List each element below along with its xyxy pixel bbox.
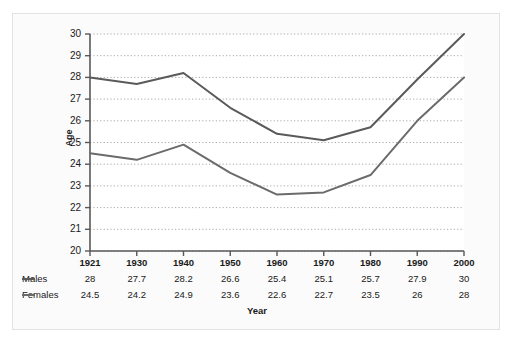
table-cell: 25.4 [254,271,301,287]
table-year-header: 1921 [67,255,114,271]
y-tick-label: 21 [57,223,81,235]
table-cell: 24.9 [160,287,207,303]
table-year-header: 1940 [160,255,207,271]
table-year-header: 1960 [254,255,301,271]
legend-item-females: Females [22,287,67,303]
legend-swatch-icon [22,294,35,296]
legend-swatch-icon [22,278,35,280]
table-cell: 26.6 [207,271,254,287]
table-header-row: 192119301940195019601970198019902000 [22,255,487,271]
table-cell: 25.1 [300,271,347,287]
table-cell: 23.6 [207,287,254,303]
x-axis-title: Year [0,305,514,316]
table-year-header: 1950 [207,255,254,271]
table-row: Females24.524.224.923.622.622.723.52628 [22,287,487,303]
y-tick-label: 23 [57,180,81,192]
table-cell: 25.7 [347,271,394,287]
table-cell: 28.2 [160,271,207,287]
table-year-header: 1980 [347,255,394,271]
table-year-header: 2000 [441,255,488,271]
data-table: 192119301940195019601970198019902000Male… [22,255,487,303]
table-year-header: 1930 [113,255,160,271]
table-cell: 24.5 [67,287,114,303]
table-year-header: 1970 [300,255,347,271]
table-cell: 30 [441,271,488,287]
table-cell: 27.9 [394,271,441,287]
y-tick-label: 27 [57,93,81,105]
table-row: Males2827.728.226.625.425.125.727.930 [22,271,487,287]
table-cell: 28 [441,287,488,303]
legend-item-males: Males [22,271,67,287]
table-cell: 22.6 [254,287,301,303]
table-cell: 23.5 [347,287,394,303]
y-tick-label: 24 [57,158,81,170]
table-cell: 24.2 [113,287,160,303]
y-tick-label: 30 [57,28,81,40]
y-tick-label: 25 [57,137,81,149]
table-cell: 26 [394,287,441,303]
y-tick-label: 22 [57,202,81,214]
y-tick-label: 28 [57,71,81,83]
y-tick-label: 29 [57,50,81,62]
table-cell: 28 [67,271,114,287]
y-tick-label: 26 [57,115,81,127]
table-year-header: 1990 [394,255,441,271]
table-cell: 27.7 [113,271,160,287]
table-corner-cell [22,255,67,271]
table-cell: 22.7 [300,287,347,303]
